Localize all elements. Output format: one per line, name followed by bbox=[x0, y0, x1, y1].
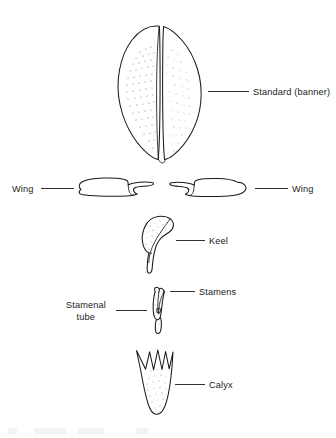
figure-background bbox=[0, 0, 336, 438]
label-wing-right: Wing bbox=[292, 184, 314, 194]
label-standard: Standard (banner) bbox=[253, 87, 330, 97]
label-stamenal-tube-line2: tube bbox=[77, 312, 95, 322]
label-stamens: Stamens bbox=[199, 287, 237, 297]
flower-parts-figure: Standard (banner) Wing Wing bbox=[0, 0, 336, 438]
label-stamenal-tube-line1: Stamenal bbox=[66, 300, 106, 310]
page-edge-artifact bbox=[8, 428, 178, 434]
label-wing-left: Wing bbox=[12, 184, 34, 194]
flower-diagram: Standard (banner) Wing Wing bbox=[0, 0, 336, 438]
label-calyx: Calyx bbox=[209, 380, 233, 390]
label-keel: Keel bbox=[209, 236, 228, 246]
